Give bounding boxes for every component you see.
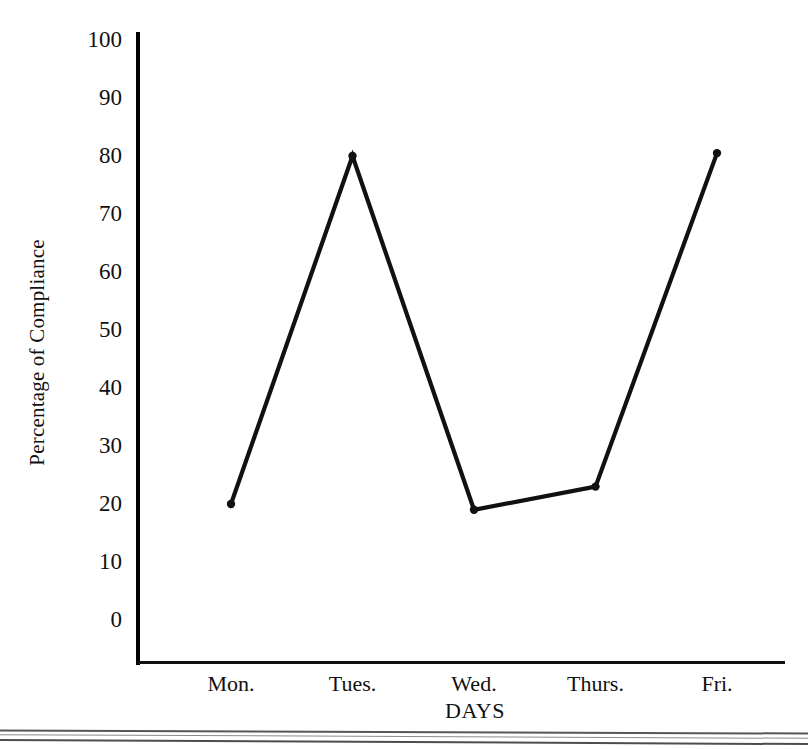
line-chart-figure: Percentage of Compliance 100908070605040… (0, 0, 808, 749)
x-axis-tick-labels: Mon.Tues.Wed.Thurs.Fri. (0, 0, 808, 749)
x-axis-tick-label: Mon. (161, 671, 301, 697)
x-axis-tick-label: Thurs. (526, 671, 666, 697)
x-axis-tick-label: Wed. (404, 671, 544, 697)
x-axis-tick-label: Fri. (647, 671, 787, 697)
x-axis-title-text: DAYS (445, 698, 505, 723)
x-axis-tick-label: Tues. (283, 671, 423, 697)
x-axis-title: DAYS (0, 698, 808, 724)
